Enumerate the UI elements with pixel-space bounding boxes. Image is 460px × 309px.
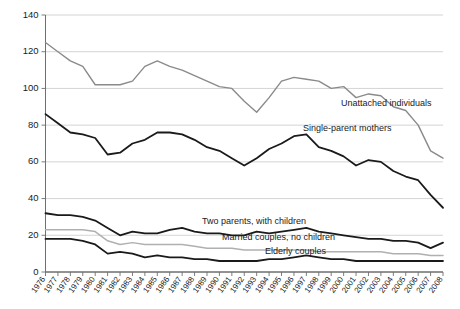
series-label: Single-parent mothers	[303, 123, 392, 133]
x-tick-label: 2008	[427, 275, 445, 295]
series-label: Unattached individuals	[341, 98, 432, 108]
y-tick-label: 0	[33, 266, 38, 277]
line-chart: 020406080100120140 197619771978197919801…	[0, 0, 460, 309]
series-lines	[46, 43, 444, 261]
chart-container: 020406080100120140 197619771978197919801…	[0, 0, 460, 309]
y-tick-labels: 020406080100120140	[23, 9, 46, 277]
x-tick-marks	[46, 272, 444, 276]
y-tick-label: 60	[28, 155, 39, 166]
y-tick-label: 120	[23, 45, 39, 56]
y-tick-label: 80	[28, 119, 39, 130]
y-tick-label: 140	[23, 9, 39, 20]
y-tick-label: 40	[28, 192, 39, 203]
series-label: Married couples, no children	[222, 232, 335, 242]
y-tick-label: 20	[28, 229, 39, 240]
series-label: Two parents, with children	[202, 216, 306, 226]
series-annotations: Unattached individualsSingle-parent moth…	[202, 98, 432, 256]
x-tick-labels: 1976197719781979198019811982198319841985…	[30, 275, 445, 295]
y-tick-label: 100	[23, 82, 39, 93]
series-label: Elderly couples	[265, 246, 327, 256]
